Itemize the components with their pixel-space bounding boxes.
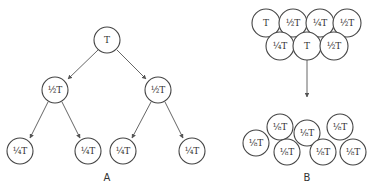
node-circle: ¼T [266, 32, 294, 60]
node-label: ¼T [185, 146, 200, 156]
panel-label-a: A [104, 172, 111, 183]
node-circle: ½T [145, 77, 171, 103]
node-circle: ¼T [75, 138, 101, 164]
node-label: ½T [48, 85, 63, 95]
arrow-icon [132, 102, 151, 138]
diagram: T½T½T¼T¼T¼T¼TT½T¼T½T¼TT½T⅛T⅛T⅛T⅛T⅛T⅛T⅛T … [0, 0, 370, 187]
node-circle: ⅛T [243, 130, 269, 156]
node-label: ½T [340, 18, 355, 28]
node-label: ⅛T [316, 147, 331, 157]
node-label: ¼T [116, 146, 131, 156]
node-circle: ⅛T [274, 139, 300, 165]
node-label: ¼T [273, 41, 288, 51]
node-label: ⅛T [333, 122, 348, 132]
node-circle: ⅛T [340, 139, 366, 165]
arrow-icon [68, 50, 98, 79]
node-label: T [104, 35, 110, 45]
node-label: ⅛T [300, 128, 315, 138]
node-label: ½T [151, 85, 166, 95]
node-label: ¼T [13, 146, 28, 156]
node-circle: ⅛T [327, 114, 353, 140]
node-circle: ¼T [7, 138, 33, 164]
node-label: ⅛T [346, 147, 361, 157]
node-circle: ⅛T [267, 114, 293, 140]
nodes: T½T½T¼T¼T¼T¼TT½T¼T½T¼TT½T⅛T⅛T⅛T⅛T⅛T⅛T⅛T [7, 9, 366, 165]
node-label: T [263, 18, 269, 28]
node-label: ½T [327, 41, 342, 51]
node-circle: ⅛T [310, 139, 336, 165]
arrow-icon [117, 50, 146, 79]
node-label: ⅛T [249, 138, 264, 148]
node-label: ¼T [313, 18, 328, 28]
node-circle: T [293, 32, 321, 60]
node-label: ½T [286, 18, 301, 28]
node-label: ¼T [81, 146, 96, 156]
panel-label-b: B [304, 172, 311, 183]
node-circle: ½T [42, 77, 68, 103]
node-label: ⅛T [280, 147, 295, 157]
node-label: T [304, 41, 310, 51]
arrow-icon [62, 102, 80, 138]
node-circle: ¼T [110, 138, 136, 164]
node-label: ⅛T [273, 122, 288, 132]
node-circle: ½T [320, 32, 348, 60]
arrow-icon [30, 102, 48, 138]
node-circle: ¼T [179, 138, 205, 164]
panel-labels: AB [104, 172, 311, 183]
arrow-icon [165, 102, 183, 138]
node-circle: T [94, 27, 120, 53]
